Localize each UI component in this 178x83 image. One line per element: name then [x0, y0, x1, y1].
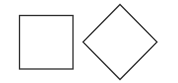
diamond-shape: [83, 5, 157, 80]
diagram-canvas: [0, 0, 178, 83]
square-shape: [20, 16, 74, 70]
shapes-svg: [0, 0, 178, 83]
